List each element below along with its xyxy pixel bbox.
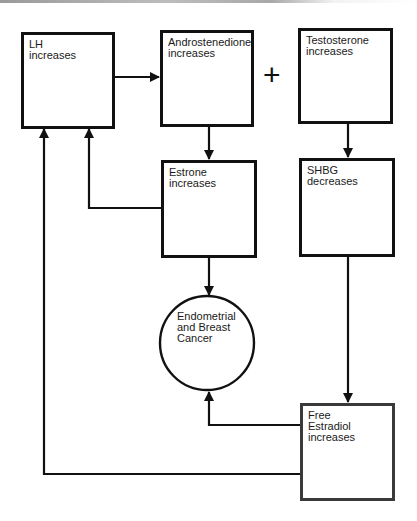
node-estrone-increases: Estrone increases (161, 160, 257, 258)
node-label: Testosterone increases (306, 35, 369, 57)
node-endometrial-breast-cancer-label: Endometrial and Breast Cancer (177, 311, 236, 344)
node-label: Estrone increases (169, 167, 216, 189)
node-free-estradiol-increases: Free Estradiol increases (300, 403, 395, 501)
node-label: SHBG decreases (307, 165, 358, 187)
arrow-free-estradiol-to-cancer (209, 392, 300, 425)
node-label: Androstenedione increases (168, 37, 251, 59)
node-label: Free Estradiol increases (308, 410, 355, 443)
node-shbg-decreases: SHBG decreases (299, 158, 395, 257)
node-androstenedione-increases: Androstenedione increases (160, 30, 254, 127)
arrow-estrone-to-lh (89, 129, 161, 208)
node-label: LH increases (29, 39, 76, 61)
node-lh-increases: LH increases (21, 32, 115, 129)
node-testosterone-increases: Testosterone increases (298, 28, 393, 124)
plus-operator: + (263, 60, 281, 90)
